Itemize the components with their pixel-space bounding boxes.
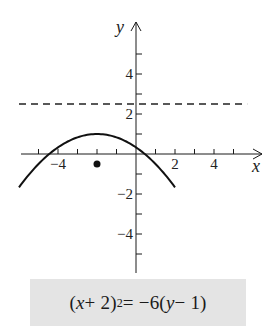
- y-tick-label: 2: [126, 106, 134, 122]
- x-tick-label: −4: [50, 156, 66, 172]
- equation-caption: (x + 2)2 = −6(y − 1): [30, 279, 246, 326]
- y-tick-label: 4: [126, 66, 134, 82]
- x-tick-label: 2: [171, 156, 179, 172]
- focus-point: [94, 161, 101, 168]
- eq-rhs-rest: − 1): [175, 292, 207, 314]
- y-tick-label: −2: [117, 186, 133, 202]
- x-tick-label: 4: [210, 156, 218, 172]
- y-axis-label: y: [114, 17, 124, 37]
- y-tick-label: −4: [117, 226, 133, 242]
- eq-lhs-rest: + 2): [85, 292, 117, 314]
- focus-dot: [94, 161, 101, 168]
- eq-middle: = −6(: [123, 292, 166, 314]
- eq-var-x: x: [76, 292, 85, 314]
- eq-var-y: y: [166, 292, 175, 314]
- x-axis-label: x: [251, 156, 260, 176]
